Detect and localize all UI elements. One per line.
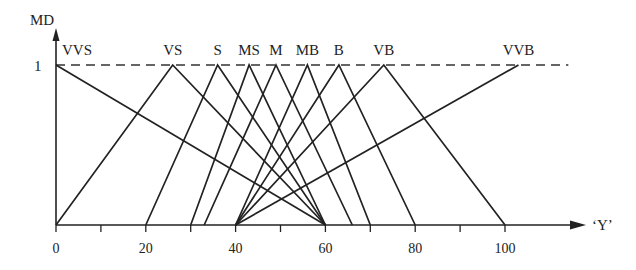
peak-label-vs: VS: [163, 42, 182, 58]
peak-label-vvb: VVB: [503, 42, 535, 58]
x-tick-label: 100: [495, 241, 516, 256]
mf-b: [236, 65, 416, 225]
peak-label-ms: MS: [238, 42, 260, 58]
peak-label-mb: MB: [296, 42, 319, 58]
x-tick-label: 40: [229, 241, 243, 256]
membership-functions: [56, 65, 519, 225]
mf-vvs: [56, 65, 325, 225]
peak-label-vb: VB: [373, 42, 394, 58]
mf-s: [146, 65, 326, 225]
mf-vb: [236, 65, 505, 225]
x-axis-arrow-icon: [570, 221, 586, 230]
peak-labels: VVSVSSMSMMBBVBVVB: [62, 42, 534, 58]
x-tick-label: 20: [139, 241, 153, 256]
peak-label-vvs: VVS: [62, 42, 92, 58]
y-tick-label-one: 1: [34, 58, 42, 74]
y-axis-arrow-icon: [53, 28, 60, 41]
membership-function-chart: MD ‘Y’ 1 020406080100 VVSVSSMSMMBBVBVVB: [0, 0, 636, 270]
x-tick-label: 0: [53, 241, 60, 256]
x-ticks: 020406080100: [53, 225, 516, 256]
x-axis-label: ‘Y’: [592, 217, 613, 233]
mf-vvb: [236, 65, 519, 225]
x-tick-label: 80: [408, 241, 422, 256]
y-axis-label: MD: [30, 12, 54, 28]
peak-label-m: M: [269, 42, 282, 58]
x-tick-label: 60: [318, 241, 332, 256]
peak-label-s: S: [213, 42, 221, 58]
peak-label-b: B: [334, 42, 344, 58]
